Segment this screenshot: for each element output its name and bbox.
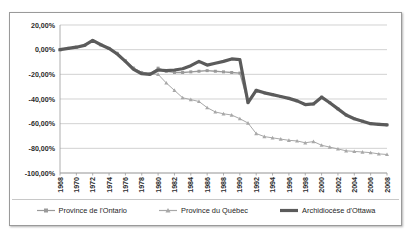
data-point-marker [189, 70, 192, 73]
data-point-marker [181, 71, 184, 74]
series-1 [58, 39, 389, 156]
data-point-marker [206, 69, 209, 72]
x-axis-tick-label: 2004 [351, 177, 359, 193]
x-axis-tick-label: 1968 [57, 177, 65, 193]
x-axis-tick-label: 1972 [89, 177, 97, 193]
legend-item-2[interactable]: Archidiocèse d'Ottawa [279, 206, 375, 215]
x-axis-tick-label: 2002 [335, 177, 343, 193]
legend-swatch-triangle-icon [158, 206, 178, 215]
legend-label: Archidiocèse d'Ottawa [302, 206, 375, 215]
x-axis-tick-label: 1978 [138, 177, 146, 193]
x-axis-tick-label: 1980 [155, 177, 163, 193]
legend-item-1[interactable]: Province du Québec [158, 206, 248, 215]
line-chart: 20,00%0,00%-20,00%-40,00%-60,00%-80,00%-… [11, 14, 402, 204]
data-point-marker [214, 70, 217, 73]
x-axis-tick-label: 1992 [253, 177, 261, 193]
legend-label: Province de l'Ontario [59, 206, 127, 215]
chart-legend: Province de l'OntarioProvince du QuébecA… [12, 199, 399, 221]
x-axis-tick-label: 1970 [73, 177, 81, 193]
legend-label: Province du Québec [181, 206, 248, 215]
legend-swatch-none-icon [279, 206, 299, 215]
x-axis-tick-label: 1998 [302, 177, 310, 193]
data-point-marker [222, 70, 225, 73]
y-axis-tick-label: -100,00% [25, 170, 56, 178]
legend-swatch-square-icon [36, 206, 56, 215]
series-line [60, 41, 387, 154]
y-axis-tick-label: 20,00% [31, 22, 56, 30]
x-axis-tick-label: 1996 [286, 177, 294, 193]
chart-frame: 20,00%0,00%-20,00%-40,00%-60,00%-80,00%-… [9, 12, 402, 226]
chart-plot-area: 20,00%0,00%-20,00%-40,00%-60,00%-80,00%-… [11, 14, 400, 224]
x-axis-tick-label: 1982 [171, 177, 179, 193]
y-axis-tick-label: -80,00% [29, 145, 56, 153]
x-axis-tick-label: 2008 [384, 177, 392, 193]
x-axis-tick-label: 1990 [236, 177, 244, 193]
x-axis-tick-label: 2006 [367, 177, 375, 193]
x-axis-tick-label: 1974 [106, 177, 114, 193]
data-point-marker [230, 71, 233, 74]
y-axis-tick-label: -60,00% [29, 120, 56, 128]
x-axis-tick-label: 1988 [220, 177, 228, 193]
y-axis-tick-label: -20,00% [29, 71, 56, 79]
legend-item-0[interactable]: Province de l'Ontario [36, 206, 127, 215]
data-point-marker [197, 70, 200, 73]
y-axis-tick-label: 0,00% [35, 46, 56, 54]
y-axis-tick-label: -40,00% [29, 96, 56, 104]
x-axis-tick-label: 1984 [187, 177, 195, 193]
x-axis-tick-label: 1976 [122, 177, 130, 193]
x-axis-tick-label: 2000 [318, 177, 326, 193]
x-axis-tick-label: 1986 [204, 177, 212, 193]
x-axis-tick-label: 1994 [269, 177, 277, 193]
